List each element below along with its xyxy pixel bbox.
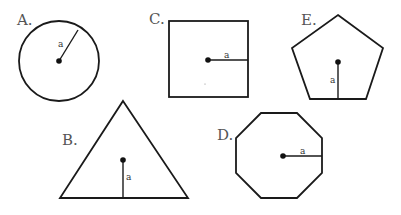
figure-c-square: C. a	[149, 10, 248, 97]
triangle-outline	[60, 101, 188, 198]
figure-a-label: A.	[16, 11, 33, 29]
center-dot	[120, 157, 126, 163]
center-dot	[205, 57, 211, 63]
center-dot	[56, 58, 62, 64]
center-dot	[335, 59, 341, 65]
figure-e-pentagon: E. a	[292, 11, 383, 99]
center-dot	[280, 153, 286, 159]
apothem-label: a	[126, 172, 132, 182]
figure-d-label: D.	[217, 126, 233, 144]
figure-e-label: E.	[301, 11, 317, 29]
figure-c-label: C.	[149, 10, 165, 28]
figure-d-octagon: D. a	[217, 113, 322, 198]
apothem-label: a	[300, 146, 306, 156]
radius-label: a	[58, 39, 64, 49]
figure-b-triangle: B. a	[60, 101, 188, 198]
shapes-diagram: A. a C. a E. a B. a D. a	[0, 0, 401, 215]
figure-b-label: B.	[62, 131, 78, 149]
apothem-label: a	[330, 75, 336, 85]
figure-a-circle: A. a	[16, 11, 99, 101]
apothem-label: a	[224, 50, 230, 60]
stray-dot	[204, 83, 205, 84]
